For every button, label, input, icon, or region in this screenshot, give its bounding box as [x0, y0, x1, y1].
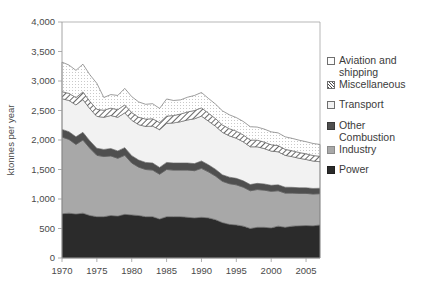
x-tick-label: 1970: [51, 265, 72, 276]
legend-item-transport[interactable]: Transport: [327, 99, 443, 111]
legend-label: Transport: [339, 99, 384, 111]
legend-label: Other Combustion: [339, 120, 395, 143]
legend-item-other-combustion[interactable]: Other Combustion: [327, 120, 443, 143]
y-axis-title: ktonnes per year: [5, 105, 16, 176]
chart-legend: Aviation and shipping Miscellaneous Tran…: [327, 55, 443, 176]
legend-item-industry[interactable]: Industry: [327, 144, 443, 156]
legend-item-miscellaneous[interactable]: Miscellaneous: [327, 79, 443, 91]
legend-label: Aviation and shipping: [339, 55, 397, 78]
x-tick-label: 2005: [295, 265, 316, 276]
legend-label: Industry: [339, 144, 376, 156]
x-tick-label: 1995: [226, 265, 247, 276]
y-tick-label: 4,000: [31, 16, 55, 27]
industry-swatch-icon: [327, 146, 335, 154]
x-tick-label: 1990: [191, 265, 212, 276]
legend-item-aviation-and-shipping[interactable]: Aviation and shipping: [327, 55, 443, 78]
transport-swatch-icon: [327, 101, 335, 109]
power-swatch-icon: [327, 166, 335, 174]
y-tick-label: 3,500: [31, 46, 55, 57]
aviation-and-shipping-swatch-icon: [327, 57, 335, 65]
x-tick-label: 1975: [86, 265, 107, 276]
x-tick-label: 1985: [156, 265, 177, 276]
y-tick-label: 1,000: [31, 193, 55, 204]
miscellaneous-swatch-icon: [327, 81, 335, 89]
other-combustion-swatch-icon: [327, 122, 335, 130]
x-tick-label: 1980: [121, 265, 142, 276]
y-tick-label: 0: [50, 252, 55, 263]
legend-label: Power: [339, 164, 369, 176]
chart-figure: 05001,0001,5002,0002,5003,0003,5004,0001…: [0, 0, 445, 299]
y-tick-label: 2,500: [31, 105, 55, 116]
x-tick-label: 2000: [261, 265, 282, 276]
y-tick-label: 3,000: [31, 75, 55, 86]
y-tick-label: 2,000: [31, 134, 55, 145]
y-tick-label: 1,500: [31, 164, 55, 175]
legend-label: Miscellaneous: [339, 79, 406, 91]
legend-item-power[interactable]: Power: [327, 164, 443, 176]
area-layers: [62, 62, 320, 258]
y-tick-label: 500: [39, 223, 55, 234]
